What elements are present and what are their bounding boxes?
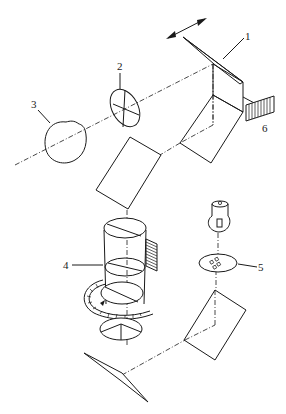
label-6: 6: [262, 122, 268, 134]
detector-grating: [243, 96, 274, 121]
filter-turret-cylinder: [84, 218, 157, 319]
optical-diagram: 1 2 3 4 5 6: [0, 0, 286, 414]
svg-text:4: 4: [63, 259, 69, 271]
label-5: 5: [238, 261, 264, 273]
light-source-sphere: [45, 121, 86, 163]
svg-text:1: 1: [245, 30, 251, 42]
svg-text:5: 5: [258, 261, 264, 273]
label-1: 1: [223, 30, 251, 59]
svg-text:3: 3: [31, 98, 37, 110]
specimen-slide: [199, 254, 237, 272]
lower-lens: [100, 318, 142, 340]
objective-lens: [208, 201, 230, 232]
label-3: 3: [31, 98, 50, 123]
bottom-mirror: [84, 353, 148, 402]
label-4: 4: [63, 259, 103, 271]
lens: [104, 84, 146, 132]
scan-direction-arrow-icon: [166, 18, 207, 39]
label-2: 2: [117, 60, 123, 89]
relay-mirror-upper: [96, 137, 161, 209]
svg-text:2: 2: [117, 60, 123, 72]
svg-text:6: 6: [262, 122, 268, 134]
